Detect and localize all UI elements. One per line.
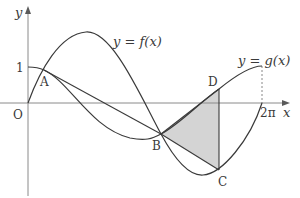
curve-g-label-text: y = g(x)	[237, 53, 290, 68]
x-tick-2pi-label: 2π	[260, 106, 276, 120]
point-d-label: D	[208, 75, 218, 89]
x-axis-label: x	[283, 105, 291, 120]
y-axis-label: y	[14, 5, 23, 20]
point-b-label: B	[152, 139, 161, 153]
curve-g-label: y = g(x)	[237, 53, 290, 68]
y-axis-arrow-icon	[25, 6, 31, 14]
function-graph-diagram: y x O 1 2π A B C D y = f(x) y = g(x)	[0, 0, 300, 198]
y-tick-1-label: 1	[16, 61, 24, 75]
shaded-triangle-bdc	[161, 89, 219, 170]
curve-f-label: y = f(x)	[112, 34, 162, 49]
point-a-label: A	[39, 75, 49, 89]
point-c-label: C	[218, 175, 227, 189]
origin-label: O	[13, 108, 23, 122]
curve-f-label-text: y = f(x)	[112, 34, 162, 49]
